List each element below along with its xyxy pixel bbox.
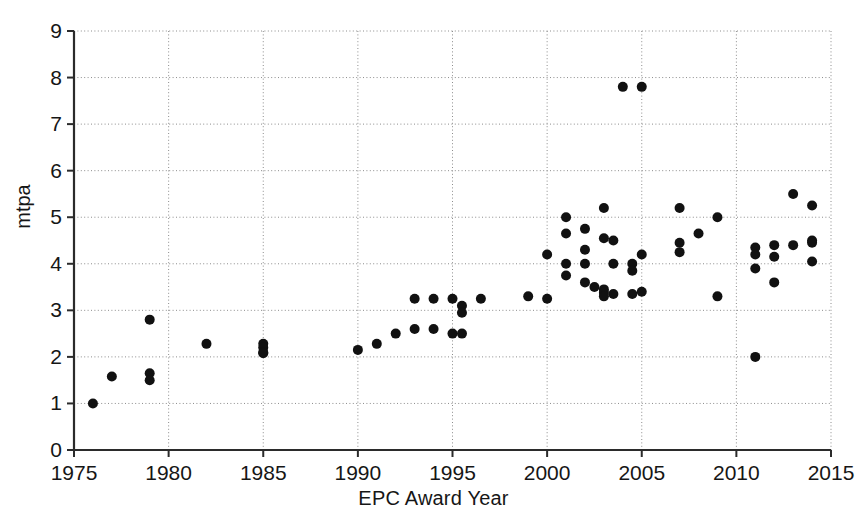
- scatter-chart: mtpa EPC Award Year 0123456789 197519801…: [0, 0, 867, 523]
- data-point: [788, 240, 798, 250]
- data-point: [561, 212, 571, 222]
- data-point: [523, 291, 533, 301]
- data-point: [637, 82, 647, 92]
- data-point: [476, 294, 486, 304]
- data-point: [637, 287, 647, 297]
- data-point: [675, 203, 685, 213]
- data-point: [750, 352, 760, 362]
- data-points: [88, 82, 817, 409]
- data-point: [542, 294, 552, 304]
- data-point: [675, 247, 685, 257]
- data-point: [88, 398, 98, 408]
- data-point: [807, 201, 817, 211]
- data-point: [608, 236, 618, 246]
- data-point: [145, 315, 155, 325]
- data-point: [637, 249, 647, 259]
- data-point: [599, 291, 609, 301]
- plot-area: [0, 0, 867, 523]
- data-point: [410, 294, 420, 304]
- axis-lines: [67, 31, 831, 457]
- data-point: [561, 259, 571, 269]
- data-point: [580, 259, 590, 269]
- data-point: [542, 249, 552, 259]
- data-point: [589, 282, 599, 292]
- data-point: [372, 339, 382, 349]
- data-point: [429, 294, 439, 304]
- data-point: [599, 203, 609, 213]
- data-point: [448, 329, 458, 339]
- data-point: [599, 233, 609, 243]
- data-point: [457, 329, 467, 339]
- data-point: [769, 252, 779, 262]
- data-point: [580, 245, 590, 255]
- data-point: [807, 256, 817, 266]
- data-point: [258, 348, 268, 358]
- data-point: [145, 375, 155, 385]
- data-point: [675, 238, 685, 248]
- data-point: [788, 189, 798, 199]
- data-point: [410, 324, 420, 334]
- data-point: [769, 277, 779, 287]
- data-point: [391, 329, 401, 339]
- data-point: [627, 289, 637, 299]
- data-point: [750, 263, 760, 273]
- data-point: [457, 308, 467, 318]
- data-point: [107, 371, 117, 381]
- data-point: [561, 270, 571, 280]
- data-point: [353, 345, 363, 355]
- data-point: [712, 212, 722, 222]
- data-point: [608, 259, 618, 269]
- data-point: [750, 249, 760, 259]
- data-point: [694, 229, 704, 239]
- data-point: [618, 82, 628, 92]
- data-point: [712, 291, 722, 301]
- data-point: [627, 266, 637, 276]
- gridlines: [74, 31, 831, 450]
- data-point: [580, 224, 590, 234]
- data-point: [608, 289, 618, 299]
- data-point: [807, 238, 817, 248]
- data-point: [561, 229, 571, 239]
- data-point: [580, 277, 590, 287]
- data-point: [769, 240, 779, 250]
- data-point: [429, 324, 439, 334]
- data-point: [448, 294, 458, 304]
- data-point: [201, 339, 211, 349]
